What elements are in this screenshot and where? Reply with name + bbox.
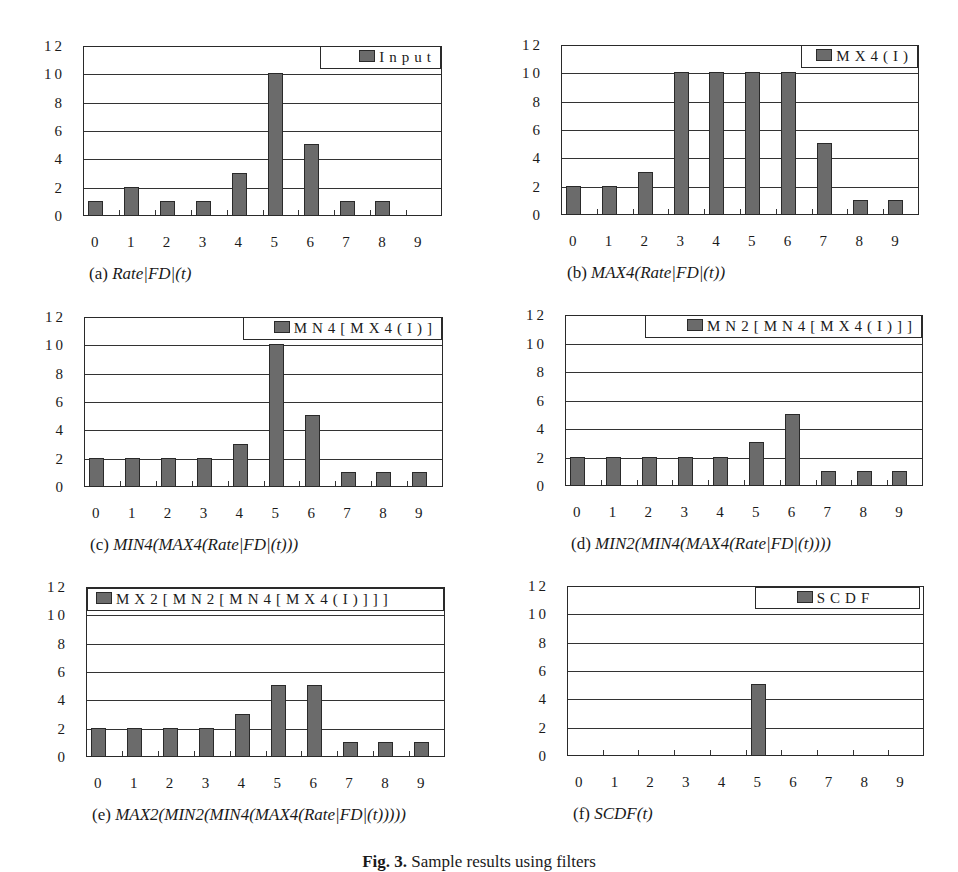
y-tick-label: 0 — [38, 749, 68, 765]
x-tick-label: 4 — [229, 505, 249, 521]
x-tick-mark — [883, 209, 884, 214]
x-tick-mark — [637, 480, 638, 485]
x-tick-label: 9 — [885, 233, 905, 249]
x-tick-label: 0 — [86, 505, 106, 521]
x-tick-label: 4 — [706, 233, 726, 249]
x-tick-label: 1 — [603, 504, 623, 520]
x-tick-mark — [888, 750, 889, 755]
x-tick-label: 8 — [373, 505, 393, 521]
gridline — [85, 345, 442, 346]
bar-2 — [163, 728, 178, 757]
x-tick-label: 3 — [195, 775, 215, 791]
gridline — [85, 402, 442, 403]
bar-3 — [678, 457, 693, 487]
bar-5 — [745, 72, 760, 215]
y-tick-label: 10 — [517, 336, 547, 352]
x-tick-label: 3 — [674, 504, 694, 520]
gridline — [84, 159, 441, 160]
bar-9 — [412, 472, 427, 487]
bar-9 — [892, 471, 907, 486]
x-tick-label: 8 — [372, 234, 392, 250]
x-tick-label: 7 — [336, 234, 356, 250]
y-tick-label: 8 — [517, 364, 547, 380]
x-tick-label: 8 — [375, 775, 395, 791]
y-tick-label: 2 — [38, 721, 68, 737]
x-tick-label: 1 — [604, 774, 624, 790]
x-tick-label: 5 — [742, 233, 762, 249]
x-tick-mark — [887, 480, 888, 485]
x-tick-label: 8 — [854, 774, 874, 790]
x-tick-label: 5 — [264, 234, 284, 250]
y-tick-label: 2 — [513, 179, 543, 195]
bar-1 — [125, 458, 140, 487]
panel-caption-formula: MIN2(MIN4(MAX4(Rate|FD|(t)))) — [595, 534, 831, 553]
panel-caption-formula: MAX4(Rate|FD|(t)) — [591, 263, 725, 282]
x-tick-label: 0 — [88, 775, 108, 791]
gridline — [566, 401, 922, 402]
bar-4 — [709, 72, 724, 215]
bar-6 — [781, 72, 796, 215]
bar-0 — [89, 458, 104, 487]
x-tick-label: 9 — [408, 234, 428, 250]
x-tick-label: 1 — [599, 233, 619, 249]
y-tick-label: 10 — [36, 337, 66, 353]
y-tick-label: 4 — [36, 422, 66, 438]
y-tick-label: 2 — [35, 180, 65, 196]
panel-caption: (c) MIN4(MAX4(Rate|FD|(t))) — [90, 535, 298, 555]
x-tick-label: 8 — [849, 233, 869, 249]
legend-label: MN4[MX4(I)] — [294, 320, 437, 336]
x-tick-mark — [851, 480, 852, 485]
x-tick-mark — [191, 210, 192, 215]
y-tick-label: 6 — [513, 122, 543, 138]
x-tick-mark — [740, 209, 741, 214]
x-tick-label: 1 — [124, 775, 144, 791]
panel-caption-formula: SCDF(t) — [594, 804, 653, 823]
gridline — [87, 700, 444, 701]
x-tick-label: 5 — [267, 775, 287, 791]
x-tick-label: 4 — [710, 504, 730, 520]
bar-5 — [749, 442, 764, 486]
x-tick-mark — [776, 209, 777, 214]
x-tick-label: 0 — [563, 233, 583, 249]
bar-8 — [853, 200, 868, 215]
y-tick-label: 6 — [38, 664, 68, 680]
x-tick-mark — [230, 751, 231, 756]
x-tick-label: 9 — [409, 505, 429, 521]
plot-area — [83, 46, 442, 216]
x-tick-mark — [122, 751, 123, 756]
x-tick-label: 0 — [567, 504, 587, 520]
y-tick-label: 8 — [519, 635, 549, 651]
bar-7 — [340, 201, 355, 216]
y-tick-label: 8 — [38, 636, 68, 652]
x-tick-mark — [119, 210, 120, 215]
x-tick-label: 0 — [85, 234, 105, 250]
bar-5 — [268, 73, 283, 216]
x-tick-mark — [672, 480, 673, 485]
x-tick-label: 4 — [231, 775, 251, 791]
gridline — [568, 614, 923, 615]
bar-1 — [127, 728, 142, 757]
x-tick-mark — [299, 481, 300, 486]
x-tick-mark — [194, 751, 195, 756]
panel-caption-prefix: (f) — [573, 804, 590, 823]
y-tick-label: 10 — [513, 65, 543, 81]
legend: MN2[MN4[MX4(I)]] — [645, 315, 922, 338]
x-tick-mark — [781, 750, 782, 755]
bar-3 — [199, 728, 214, 757]
x-tick-label: 7 — [819, 774, 839, 790]
x-tick-mark — [371, 481, 372, 486]
x-tick-label: 2 — [638, 504, 658, 520]
bar-8 — [376, 472, 391, 487]
x-tick-label: 3 — [676, 774, 696, 790]
legend-swatch-icon — [797, 591, 813, 603]
legend-swatch-icon — [96, 592, 112, 604]
legend-swatch-icon — [687, 319, 703, 331]
gridline — [562, 130, 918, 131]
gridline — [566, 429, 922, 430]
x-tick-label: 3 — [670, 233, 690, 249]
x-tick-label: 9 — [890, 774, 910, 790]
bar-2 — [642, 457, 657, 487]
bar-2 — [161, 458, 176, 487]
x-tick-label: 3 — [193, 505, 213, 521]
x-tick-mark — [746, 750, 747, 755]
